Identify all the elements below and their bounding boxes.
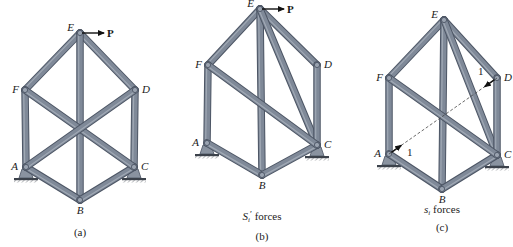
joint-d-pin xyxy=(132,87,137,92)
panel-b-caption: (b) xyxy=(256,230,269,243)
joint-b-pin xyxy=(77,197,82,202)
unit-load-label-d: 1 xyxy=(478,65,484,77)
member-eb xyxy=(441,20,444,189)
member-dc xyxy=(496,78,497,155)
joint-c-pin xyxy=(494,152,499,157)
truss-figure: ABCDEFP ABCDEFP ABCDEF11 (a) Si′ forces … xyxy=(0,0,513,247)
member-ab xyxy=(206,143,262,176)
joint-e-pin xyxy=(257,6,262,11)
joint-d-pin xyxy=(314,62,319,67)
joint-a-label: A xyxy=(10,160,18,172)
member-ab xyxy=(25,167,80,201)
joint-e-label: E xyxy=(246,0,254,9)
joint-a-label: A xyxy=(191,136,199,148)
member-ef xyxy=(388,19,444,78)
joint-f-label: F xyxy=(194,58,202,70)
unit-load-arrow-d xyxy=(485,80,495,87)
joint-e-pin xyxy=(441,17,446,22)
joint-f-label: F xyxy=(375,71,383,83)
panel-b-truss: ABCDEFP xyxy=(191,0,332,191)
member-ed xyxy=(259,9,317,66)
joint-d-label: D xyxy=(323,58,332,70)
joint-e-pin xyxy=(77,30,82,35)
joint-e-label: E xyxy=(430,8,438,20)
load-p-label: P xyxy=(107,27,114,39)
joint-b-label: B xyxy=(259,179,266,191)
member-fa xyxy=(206,65,208,143)
member-bc xyxy=(442,155,498,190)
panel-c-caption: (c) xyxy=(436,221,449,234)
joint-e-label: E xyxy=(66,21,74,33)
member-bc xyxy=(80,167,135,201)
joint-c-label: C xyxy=(504,148,512,160)
joint-c-label: C xyxy=(141,160,149,172)
joint-f-pin xyxy=(22,87,27,92)
joint-c-pin xyxy=(314,142,319,147)
joint-b-label: B xyxy=(77,204,84,216)
panel-c-truss: ABCDEF11 xyxy=(373,8,512,205)
member-dc xyxy=(133,90,135,167)
member-ef xyxy=(207,8,260,65)
joint-b-pin xyxy=(259,172,264,177)
member-eb xyxy=(259,9,262,175)
panel-a-caption: (a) xyxy=(74,226,87,239)
joint-f-pin xyxy=(386,75,391,80)
member-ef xyxy=(24,32,80,90)
joint-a-label: A xyxy=(373,147,381,159)
panel-a-truss: ABCDEFP xyxy=(10,21,150,216)
member-fa xyxy=(24,90,26,167)
unit-load-arrow-a xyxy=(391,145,401,152)
member-ed xyxy=(79,33,135,91)
joint-f-pin xyxy=(205,62,210,67)
member-bc xyxy=(262,145,318,176)
member-ab xyxy=(388,154,442,190)
joint-c-label: C xyxy=(324,138,332,150)
member-dc xyxy=(316,65,317,145)
joint-c-pin xyxy=(131,164,136,169)
joint-d-label: D xyxy=(503,71,512,83)
joint-d-label: D xyxy=(141,83,150,95)
unit-load-label-a: 1 xyxy=(407,146,413,158)
member-fa xyxy=(388,78,389,154)
panel-b-subtitle: Si′ forces xyxy=(242,209,281,224)
joint-f-label: F xyxy=(11,83,19,95)
joint-a-pin xyxy=(23,164,28,169)
joint-a-pin xyxy=(204,140,209,145)
panel-c-subtitle: si forces xyxy=(424,203,460,217)
load-p-label: P xyxy=(287,3,294,15)
member-eb xyxy=(79,33,80,200)
joint-b-pin xyxy=(439,186,444,191)
